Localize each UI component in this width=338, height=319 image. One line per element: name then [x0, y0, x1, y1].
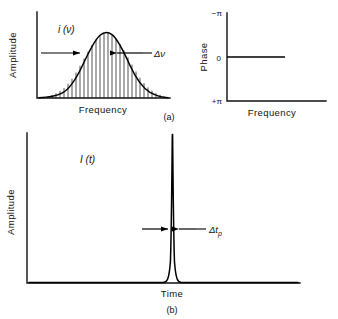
figure-fourier-transform-pair: Δν i (ν) Frequency Amplitude −π 0 +π Fre…	[0, 0, 338, 319]
pulse-x-axis-label: Time	[161, 288, 183, 299]
pulse-width-label-base: Δt	[208, 224, 218, 235]
spectrum-curve	[39, 32, 168, 97]
phase-tick-bottom: +π	[212, 97, 223, 106]
figure-canvas: Δν i (ν) Frequency Amplitude −π 0 +π Fre…	[0, 0, 338, 319]
phase-tick-top: −π	[212, 9, 223, 18]
spectrum-axes	[37, 12, 170, 98]
pulse-y-axis-label: Amplitude	[5, 189, 16, 235]
phase-tick-middle: 0	[217, 54, 222, 63]
panel-phase: −π 0 +π Frequency Phase	[198, 9, 326, 118]
panel-pulse: Δtp I (t) Time Amplitude	[5, 133, 300, 299]
pulse-function-label: I (t)	[80, 154, 95, 165]
spectrum-width-label: Δν	[153, 48, 165, 59]
spectrum-x-axis-label: Frequency	[79, 104, 127, 115]
caption-panel-a: (a)	[164, 112, 175, 122]
phase-x-axis-label: Frequency	[248, 107, 296, 118]
pulse-width-label: Δtp	[208, 224, 222, 238]
pulse-axes	[27, 133, 300, 283]
panel-spectrum: Δν i (ν) Frequency Amplitude	[7, 12, 170, 115]
pulse-width-label-subscript: p	[217, 230, 222, 238]
phase-y-axis-label: Phase	[198, 43, 209, 72]
caption-panel-b: (b)	[167, 305, 178, 315]
spectrum-hatching	[48, 33, 164, 98]
spectrum-y-axis-label: Amplitude	[7, 32, 18, 78]
spectrum-function-label: i (ν)	[58, 24, 75, 35]
pulse-curve	[29, 135, 298, 283]
